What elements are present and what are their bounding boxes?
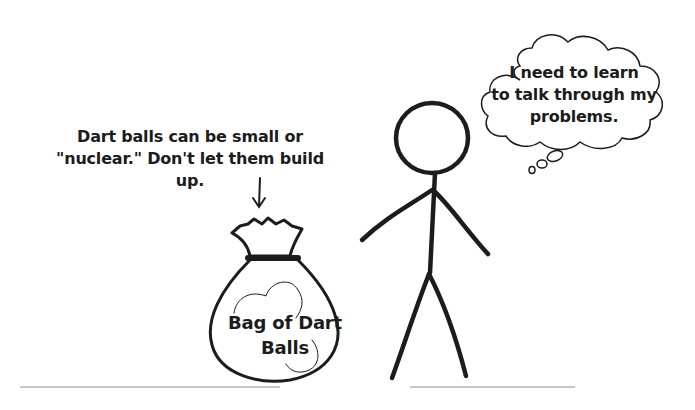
- cropped-text-fragment: [410, 386, 575, 388]
- stick-figure: [362, 103, 488, 378]
- illustration-canvas: Dart balls can be small or "nuclear." Do…: [0, 0, 695, 410]
- head-icon: [396, 103, 468, 173]
- thought-bubble-text: I need to learn to talk through my probl…: [480, 62, 668, 128]
- bag-label: Bag of Dart Balls: [210, 310, 360, 360]
- cropped-text-fragment: [20, 386, 280, 388]
- annotation-text: Dart balls can be small or "nuclear." Do…: [40, 126, 340, 192]
